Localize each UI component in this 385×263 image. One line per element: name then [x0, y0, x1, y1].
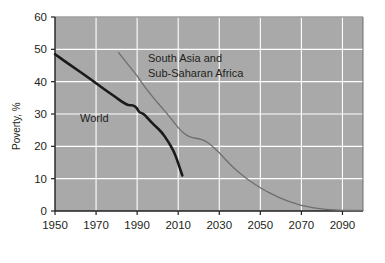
series-label-world: World [80, 112, 109, 124]
y-tick-label: 20 [34, 140, 47, 152]
x-tick-label: 1950 [42, 219, 68, 231]
y-axis-tick-labels: 0102030405060 [34, 11, 47, 217]
y-tick-label: 0 [41, 205, 47, 217]
y-axis-label: Poverty, % [11, 102, 22, 150]
x-tick-label: 2010 [165, 219, 191, 231]
x-tick-label: 2030 [206, 219, 232, 231]
y-tick-label: 50 [34, 43, 47, 55]
poverty-line-chart: 19501970199020102030205020702090 0102030… [0, 0, 385, 263]
x-axis-tick-labels: 19501970199020102030205020702090 [42, 219, 355, 231]
y-tick-label: 10 [34, 173, 47, 185]
chart-svg: 19501970199020102030205020702090 0102030… [0, 0, 385, 263]
y-tick-label: 40 [34, 76, 47, 88]
x-tick-label: 1990 [124, 219, 150, 231]
x-tick-label: 1970 [83, 219, 109, 231]
y-tick-label: 30 [34, 108, 47, 120]
y-tick-label: 60 [34, 11, 47, 23]
x-tick-label: 2090 [330, 219, 356, 231]
series-label-south-asia-line2: Sub-Saharan Africa [148, 67, 244, 79]
series-label-south-asia-line1: South Asia and [148, 52, 222, 64]
x-tick-label: 2050 [248, 219, 274, 231]
x-tick-label: 2070 [289, 219, 315, 231]
